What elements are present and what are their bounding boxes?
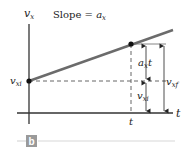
v-xi-measure-label: vxi: [137, 90, 149, 103]
t-tick-label: t: [129, 116, 134, 127]
caption-letter: b: [29, 136, 35, 147]
v-xf-label: vxf: [166, 76, 180, 89]
final-point-dot: [128, 41, 133, 46]
velocity-time-graph: vx t Slope = ax vxi t axt vxi vxf b: [0, 0, 186, 151]
a-x-t-label: axt: [138, 57, 153, 70]
v-xi-axis-label: vxi: [10, 75, 22, 88]
x-axis-label: t: [176, 107, 181, 120]
y-axis-label: vx: [24, 7, 34, 21]
velocity-line: [29, 30, 173, 81]
initial-point-dot: [26, 78, 31, 83]
slope-label: Slope = ax: [53, 9, 106, 22]
